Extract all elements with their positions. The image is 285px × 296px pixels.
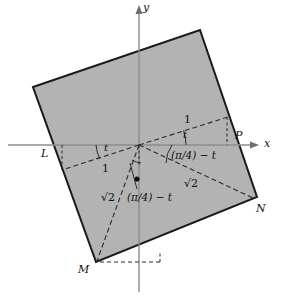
length-label-sqrt2-left: √2 [101, 192, 115, 203]
geometry-figure: x y L P N M 1 1 t t (π/4) − t (π/4) − t … [0, 0, 285, 296]
rotated-square [33, 30, 257, 262]
length-label-left: 1 [102, 163, 109, 174]
x-axis-arrowhead [250, 142, 259, 149]
vertex-label-L: L [41, 148, 48, 159]
angle-expression-right: (π/4) − t [171, 150, 216, 161]
angle-expression-lower: (π/4) − t [127, 192, 172, 203]
vertex-label-P: P [235, 130, 242, 141]
x-axis-label: x [264, 138, 270, 149]
y-axis-arrowhead [136, 5, 143, 14]
angle-label-t-left: t [104, 143, 108, 153]
leader-dot [134, 176, 139, 181]
angle-label-t-upper: t [183, 130, 187, 140]
vertex-label-N: N [256, 203, 266, 214]
y-axis-label: y [143, 2, 149, 13]
vertex-label-M: M [78, 264, 89, 275]
length-label-sqrt2-right: √2 [184, 178, 198, 189]
length-label-top: 1 [184, 114, 191, 125]
